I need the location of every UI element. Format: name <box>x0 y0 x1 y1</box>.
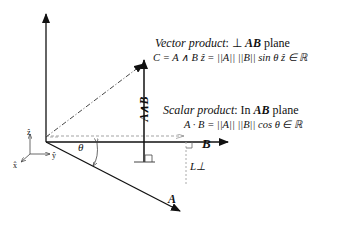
vector-product-perp: : ⊥ <box>226 36 245 50</box>
axis-x-label: x̂ <box>13 162 17 170</box>
scalar-product-title: Scalar product: In AB plane <box>163 104 299 116</box>
scalar-product-equation: A · B = ||A|| ||B|| cos θ ∈ ℝ <box>184 120 302 131</box>
scalar-product-plane-word: plane <box>270 103 299 117</box>
vector-b-label: B <box>202 137 211 150</box>
axis-z-label: ẑ <box>27 129 31 137</box>
vector-product-plane-word: plane <box>261 36 290 50</box>
theta-angle-arc <box>93 143 98 166</box>
vector-product-heading: Vector product <box>155 36 226 50</box>
vector-a-arrow <box>46 142 180 211</box>
theta-label: θ <box>78 142 83 153</box>
dashdot-diagonal <box>46 64 143 137</box>
vector-product-equation: C = A ∧ B ẑ = ||A|| ||B|| sin θ ẑ ∈ ℝ <box>153 53 307 64</box>
right-angle-marker-wedge <box>145 155 152 162</box>
wedge-label: A∧B <box>138 96 150 121</box>
scalar-product-in: : In <box>234 103 253 117</box>
vector-a-label: A <box>168 193 176 205</box>
scalar-product-plane-name: AB <box>254 103 270 117</box>
vector-product-title: Vector product: ⊥ AB plane <box>155 37 290 49</box>
scalar-product-heading: Scalar product <box>163 103 234 117</box>
axis-y-label: ŷ <box>52 152 56 160</box>
vector-product-plane-name: AB <box>245 36 261 50</box>
l-perp-label: L⊥ <box>190 161 206 172</box>
right-angle-marker-perp <box>186 142 192 148</box>
